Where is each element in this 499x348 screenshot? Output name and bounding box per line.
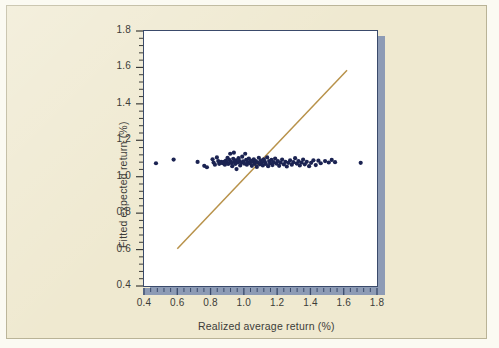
- data-point: [215, 155, 219, 159]
- data-point: [293, 156, 297, 160]
- x-tick-label: 1.6: [331, 297, 357, 308]
- x-axis-title: Realized average return (%): [198, 320, 335, 332]
- x-tick-label: 1.0: [231, 297, 257, 308]
- data-point: [314, 163, 318, 167]
- y-tick-label: 0.4: [105, 279, 131, 290]
- data-point: [323, 159, 327, 163]
- data-point: [154, 161, 158, 165]
- x-tick-label: 0.8: [198, 297, 224, 308]
- data-point: [305, 160, 309, 164]
- data-point: [232, 151, 236, 155]
- data-point: [359, 161, 363, 165]
- y-tick-label: 1.4: [105, 97, 131, 108]
- data-point: [213, 163, 217, 167]
- data-point: [265, 155, 269, 159]
- data-point: [205, 165, 209, 169]
- data-point: [333, 160, 337, 164]
- x-tick-label: 0.6: [164, 297, 190, 308]
- data-point: [311, 158, 315, 162]
- x-tick-label: 1.2: [264, 297, 290, 308]
- y-axis-title: Fitted expected return (%): [117, 121, 129, 248]
- data-point: [234, 167, 238, 171]
- plot-canvas: [144, 31, 377, 286]
- plot-area: [143, 30, 378, 287]
- x-tick-label: 0.4: [131, 297, 157, 308]
- data-point: [285, 164, 289, 168]
- data-point: [240, 155, 244, 159]
- x-tick-label: 1.8: [364, 297, 390, 308]
- data-point: [319, 161, 323, 165]
- x-axis-band: [143, 288, 385, 295]
- y-tick-label: 1.8: [105, 24, 131, 35]
- data-point: [243, 152, 247, 156]
- data-point: [228, 152, 232, 156]
- scatter-plot-figure: 0.40.60.81.01.21.41.61.80.40.60.81.01.21…: [0, 0, 499, 348]
- x-tick-label: 1.4: [297, 297, 323, 308]
- data-point: [195, 160, 199, 164]
- y-tick-label: 1.6: [105, 60, 131, 71]
- data-point: [172, 157, 176, 161]
- data-point: [301, 157, 305, 161]
